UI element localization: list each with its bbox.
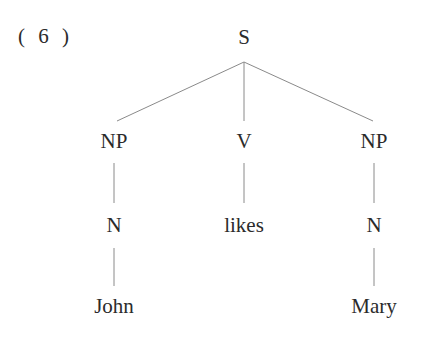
node-v: V xyxy=(236,129,251,153)
leaf-john: John xyxy=(94,294,134,318)
edge-s-np1 xyxy=(117,62,244,121)
node-n-subject: N xyxy=(106,213,121,237)
leaf-likes: likes xyxy=(224,213,264,237)
edge-s-np2 xyxy=(244,62,373,121)
node-n-object: N xyxy=(366,213,381,237)
node-s: S xyxy=(238,25,250,49)
tree-edges xyxy=(0,0,429,337)
leaf-mary: Mary xyxy=(351,294,397,318)
node-np-object: NP xyxy=(361,129,388,153)
node-np-subject: NP xyxy=(101,129,128,153)
